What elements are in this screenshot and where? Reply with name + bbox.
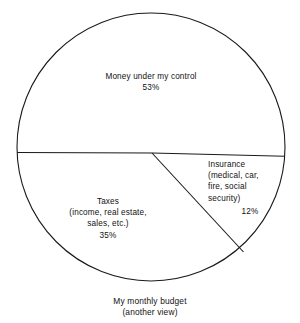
slice-label-taxes-line3: sales, etc.)	[38, 218, 178, 229]
slice-label-insurance-line3: fire, social	[208, 181, 286, 192]
chart-caption-title: My monthly budget	[0, 296, 300, 307]
pie-divider-money-taxes	[17, 153, 152, 154]
slice-label-taxes-line1: Taxes	[38, 196, 178, 207]
slice-label-insurance-line1: Insurance	[208, 159, 286, 170]
slice-label-money-under-my-control: Money under my control 53%	[56, 71, 246, 93]
pie-chart: Money under my control 53% Taxes (income…	[0, 0, 300, 323]
slice-label-insurance-line4: security)	[208, 193, 286, 204]
slice-value-money: 53%	[56, 82, 246, 93]
slice-label-insurance-line2: (medical, car,	[208, 170, 286, 181]
slice-label-taxes: Taxes (income, real estate, sales, etc.)…	[38, 196, 178, 241]
slice-label-money-text: Money under my control	[56, 71, 246, 82]
slice-label-insurance: Insurance (medical, car, fire, social se…	[208, 159, 286, 217]
slice-value-taxes: 35%	[38, 230, 178, 241]
slice-label-taxes-line2: (income, real estate,	[38, 207, 178, 218]
chart-caption-subtitle: (another view)	[0, 307, 300, 318]
slice-value-insurance: 12%	[208, 204, 286, 217]
chart-caption: My monthly budget (another view)	[0, 296, 300, 319]
